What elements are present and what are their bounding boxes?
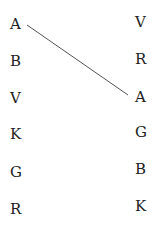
- connection-line-a-a: [27, 25, 128, 95]
- right-item-3[interactable]: A: [135, 90, 146, 105]
- right-item-6[interactable]: K: [135, 199, 146, 214]
- left-item-2[interactable]: B: [10, 54, 21, 69]
- right-item-4[interactable]: G: [135, 125, 147, 140]
- left-item-3[interactable]: V: [10, 91, 21, 106]
- left-item-4[interactable]: K: [10, 127, 21, 142]
- right-item-5[interactable]: B: [135, 162, 146, 177]
- left-item-1[interactable]: A: [10, 17, 21, 32]
- right-item-1[interactable]: V: [135, 15, 146, 30]
- left-item-5[interactable]: G: [10, 165, 22, 180]
- left-item-6[interactable]: R: [10, 202, 21, 217]
- right-item-2[interactable]: R: [135, 52, 146, 67]
